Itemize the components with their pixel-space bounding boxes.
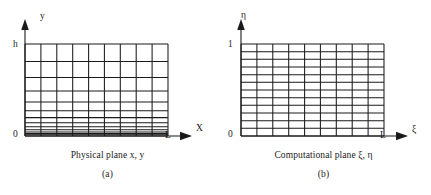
origin-tick-b: 0	[228, 130, 233, 140]
panel-computational-plane: η 1 0 L ξ Computational plane ξ, η (b)	[216, 0, 431, 195]
y-axis-arrowhead-a	[21, 19, 29, 30]
eta-axis-arrowhead-b	[237, 19, 245, 30]
y-axis-label-a: y	[40, 12, 45, 22]
panel-physical-plane: y h 0 L X Physical plane x, y (a)	[0, 0, 215, 195]
x-axis-arrowhead-a	[180, 132, 192, 140]
grid-horizontal-lines-b	[241, 44, 384, 136]
x-end-tick-a: L	[165, 131, 171, 141]
panel-a-drawing	[0, 0, 215, 195]
panel-a-sub-caption: (a)	[0, 169, 215, 179]
figure-grid-transformation: y h 0 L X Physical plane x, y (a)	[0, 0, 431, 195]
xi-axis-label-b: ξ	[412, 125, 416, 135]
xi-axis-arrowhead-b	[396, 132, 408, 140]
eta-axis-label-b: η	[241, 11, 246, 21]
panel-b-sub-caption: (b)	[216, 169, 431, 179]
panel-b-drawing	[216, 0, 431, 195]
origin-tick-a: 0	[13, 130, 18, 140]
grid-vertical-lines-a	[25, 44, 168, 136]
xi-end-tick-b: L	[380, 131, 386, 141]
eta-top-tick-b: 1	[228, 40, 233, 50]
panel-b-caption: Computational plane ξ, η	[216, 150, 431, 160]
x-axis-label-a: X	[196, 124, 203, 134]
panel-a-caption: Physical plane x, y	[0, 150, 215, 160]
y-top-tick-a: h	[13, 40, 18, 50]
grid-horizontal-lines-a	[25, 44, 168, 136]
